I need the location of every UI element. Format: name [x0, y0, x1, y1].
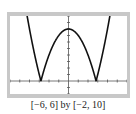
graph-window [7, 12, 130, 98]
plot-area [10, 16, 127, 94]
window-caption: [−6, 6] by [−2, 10] [0, 99, 136, 111]
